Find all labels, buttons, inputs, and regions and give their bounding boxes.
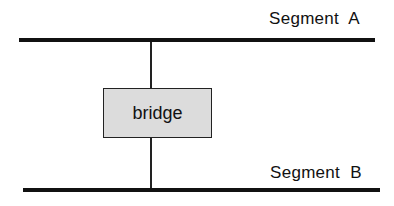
segment-a-line [19, 38, 375, 42]
bridge-label: bridge [132, 103, 182, 124]
segment-b-label: Segment B [270, 163, 362, 183]
bridge-link-segment-a [150, 42, 152, 89]
segment-b-line [23, 188, 380, 192]
bridge-link-segment-b [150, 137, 152, 189]
segment-a-label: Segment A [269, 9, 360, 29]
bridge-box: bridge [103, 88, 212, 138]
